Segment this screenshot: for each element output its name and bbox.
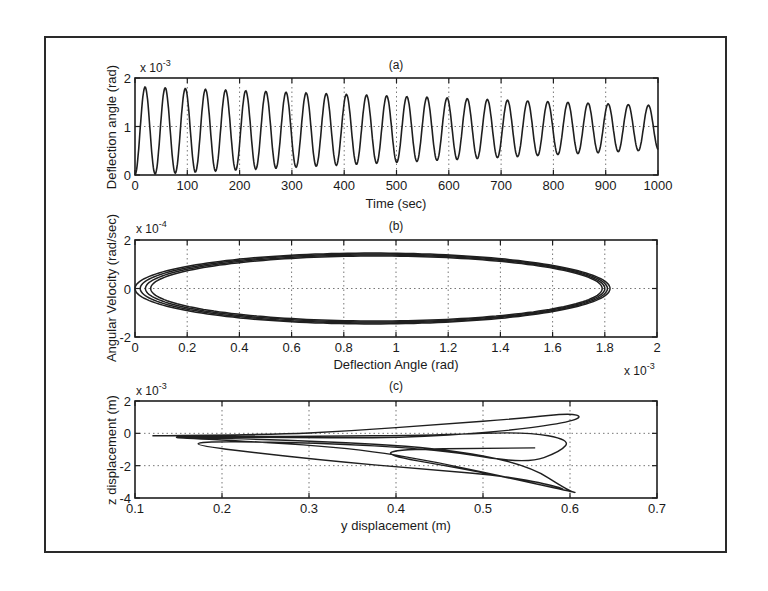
y-tick-label: -4	[119, 491, 131, 506]
x-tick-label: 0.8	[335, 340, 353, 355]
x-tick-label: 200	[229, 178, 251, 193]
x-tick-label: 100	[176, 178, 198, 193]
x-tick-label: 600	[438, 178, 460, 193]
panel-c-multiplier: x 10-3	[136, 381, 167, 398]
x-tick-label: 0.3	[300, 501, 318, 516]
panel-b-orbits	[135, 253, 610, 324]
y-tick-label: 2	[124, 394, 131, 409]
panel-c-title: (c)	[389, 379, 403, 393]
figure: (a) 01002003004005006007008009001000012 …	[0, 0, 768, 591]
y-tick-label: 0	[124, 426, 131, 441]
x-tick-label: 0.2	[213, 501, 231, 516]
x-tick-label: 0.2	[178, 340, 196, 355]
y-tick-label: -2	[119, 459, 131, 474]
panel-c-ylabel: z displacement (m)	[104, 395, 119, 505]
panel-a: (a) 01002003004005006007008009001000012 …	[104, 58, 672, 211]
x-tick-label: 0.5	[474, 501, 492, 516]
x-tick-label: 2	[653, 340, 660, 355]
panel-a-ylabel: Deflection angle (rad)	[104, 65, 119, 189]
x-tick-label: 0	[131, 178, 138, 193]
panel-a-line	[135, 87, 658, 175]
panel-b-xlabel: Deflection Angle (rad)	[333, 357, 458, 372]
y-tick-label: 1	[124, 120, 131, 135]
x-tick-label: 1.8	[596, 340, 614, 355]
orbit-line	[151, 256, 603, 321]
panel-c-xlabel: y displacement (m)	[341, 518, 451, 533]
x-tick-label: 900	[595, 178, 617, 193]
x-tick-label: 1000	[644, 178, 673, 193]
y-tick-label: 2	[124, 71, 131, 86]
trajectory-line	[152, 414, 579, 492]
y-tick-label: 0	[124, 282, 131, 297]
x-tick-label: 0	[131, 340, 138, 355]
x-tick-label: 400	[333, 178, 355, 193]
panel-b: (b) 00.20.40.60.811.21.41.61.82-202 x 10…	[104, 214, 661, 378]
y-tick-label: 2	[124, 233, 131, 248]
x-tick-label: 1.4	[491, 340, 509, 355]
panel-c: (c) 0.10.20.30.40.50.60.7-4-202 x 10-3 y…	[104, 379, 666, 533]
x-tick-label: 1.2	[439, 340, 457, 355]
panel-b-x-multiplier: x 10-3	[624, 361, 655, 378]
panel-c-trajectory	[152, 414, 579, 492]
x-tick-label: 0.6	[283, 340, 301, 355]
panel-b-title: (b)	[389, 219, 404, 233]
x-tick-label: 0.6	[561, 501, 579, 516]
x-tick-label: 800	[543, 178, 565, 193]
x-tick-label: 0.7	[648, 501, 666, 516]
x-tick-label: 500	[386, 178, 408, 193]
y-tick-label: -2	[119, 330, 131, 345]
panel-a-title: (a)	[389, 58, 404, 72]
panel-b-ylabel: Angular Velocity (rad/sec)	[104, 214, 119, 362]
x-tick-label: 700	[490, 178, 512, 193]
panel-b-y-multiplier: x 10-4	[136, 219, 167, 236]
panel-a-multiplier: x 10-3	[140, 58, 171, 75]
x-tick-label: 0.4	[230, 340, 248, 355]
panel-a-xlabel: Time (sec)	[366, 196, 427, 211]
x-tick-label: 300	[281, 178, 303, 193]
y-tick-label: 0	[124, 168, 131, 183]
x-tick-label: 1	[392, 340, 399, 355]
x-tick-label: 1.6	[544, 340, 562, 355]
x-tick-label: 0.4	[387, 501, 405, 516]
